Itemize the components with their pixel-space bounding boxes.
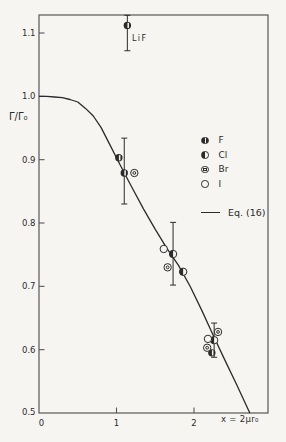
x-axis-title: x = 2μr₀ [221, 414, 259, 424]
data-point-F [115, 154, 122, 161]
legend-label-cl: Cl [219, 150, 228, 160]
y-tick-label: 1.1 [22, 28, 36, 38]
legend-row-curve: Eq. (16) [201, 205, 266, 219]
open-circle-icon [201, 180, 209, 188]
data-point-F-slit [119, 155, 121, 160]
half-filled-circle-icon [201, 137, 209, 145]
legend-label-i: I [219, 179, 222, 189]
y-tick-label: 0.6 [22, 345, 36, 355]
scatter-plot-canvas: 1.11.00.90.80.70.60.5012 [0, 0, 286, 442]
y-tick-label: 1.0 [22, 91, 36, 101]
y-tick-label: 0.5 [22, 407, 36, 417]
legend: F Cl Br I Eq. (16) [201, 133, 266, 219]
x-tick-label: 0 [39, 418, 44, 428]
data-point-F-slit [124, 170, 126, 175]
left-half-circle-icon [201, 151, 209, 159]
y-tick-label: 0.9 [22, 155, 36, 165]
legend-row-f: F [201, 133, 266, 148]
figure-page: 1.11.00.90.80.70.60.5012 Γ/Γ₀ x = 2μr₀ L… [0, 0, 286, 442]
x-tick-label: 2 [191, 418, 196, 428]
data-point-Br [131, 169, 138, 176]
curve-line-icon [201, 212, 220, 213]
legend-row-i: I [201, 177, 266, 192]
lif-point-label: LiF [132, 34, 147, 43]
data-point-LiF-slit [127, 23, 129, 28]
y-tick-label: 0.8 [22, 218, 36, 228]
y-tick-label: 0.7 [22, 281, 36, 291]
dotted-circle-icon [201, 166, 209, 174]
legend-row-br: Br [201, 162, 266, 177]
y-axis-title: Γ/Γ₀ [9, 111, 28, 122]
legend-label-br: Br [219, 164, 229, 174]
data-point-I [204, 335, 211, 342]
data-point-Br [164, 264, 171, 271]
legend-label-curve: Eq. (16) [228, 207, 266, 218]
data-point-I [160, 245, 167, 252]
data-point-Br [214, 328, 221, 335]
data-point-F-slit [212, 350, 214, 355]
legend-label-f: F [219, 135, 224, 145]
legend-row-cl: Cl [201, 148, 266, 163]
x-tick-label: 1 [114, 418, 119, 428]
data-point-Br [203, 344, 210, 351]
data-point-F [121, 169, 128, 176]
data-point-LiF [124, 22, 131, 29]
